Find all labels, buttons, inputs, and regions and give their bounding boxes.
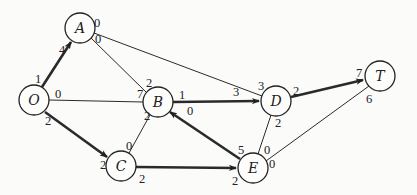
label-o-b-to: 7	[137, 87, 143, 101]
label-e-b-from: 5	[238, 143, 244, 157]
label-e-b-to: 0	[187, 104, 193, 118]
label-a-b-to: 2	[146, 76, 152, 90]
label-c-e-to: 2	[232, 174, 238, 188]
label-d-t-to: 7	[356, 66, 362, 80]
edge-b-d	[173, 101, 259, 102]
edge-c-e	[136, 167, 236, 168]
node-o: O	[19, 85, 49, 115]
node-b-label: B	[152, 94, 163, 110]
node-e: E	[238, 153, 268, 183]
node-c: C	[106, 151, 136, 181]
label-a-d-from: 0	[94, 16, 100, 30]
network-diagram: O A B C D E T 1 4 0 7 2 2 0 2 0 3 2 0 1 …	[0, 0, 417, 195]
node-o-label: O	[28, 92, 40, 108]
node-a-label: A	[73, 20, 85, 36]
label-o-a-from: 1	[35, 72, 41, 86]
edge-o-c	[45, 112, 107, 157]
label-d-e-to: 0	[264, 143, 270, 157]
node-d-label: D	[269, 93, 281, 109]
label-b-c-from: 2	[144, 109, 150, 123]
label-o-c-to: 2	[100, 158, 106, 172]
label-a-b-from: 0	[95, 32, 101, 46]
label-b-c-to: 0	[126, 139, 132, 153]
label-o-b-from: 0	[55, 87, 61, 101]
node-c-label: C	[116, 158, 127, 174]
label-e-t-from: 0	[269, 157, 275, 171]
label-b-d-to: 3	[233, 85, 239, 99]
label-d-t-from: 2	[293, 84, 299, 98]
label-e-t-to: 6	[366, 92, 372, 106]
edge-o-a	[42, 42, 71, 87]
edge-o-b	[49, 100, 143, 102]
label-a-d-to: 3	[258, 79, 264, 93]
edge-a-b	[91, 38, 146, 92]
label-b-d-from: 1	[179, 88, 185, 102]
edge-e-b	[170, 112, 240, 159]
label-d-e-from: 2	[275, 116, 281, 130]
label-c-e-from: 2	[139, 172, 145, 186]
label-o-c-from: 2	[45, 114, 51, 128]
node-d: D	[261, 86, 291, 116]
node-t: T	[365, 61, 395, 91]
edge-d-t	[291, 80, 363, 97]
node-a: A	[65, 13, 95, 43]
node-e-label: E	[247, 160, 258, 176]
label-o-a-to: 4	[59, 43, 66, 57]
